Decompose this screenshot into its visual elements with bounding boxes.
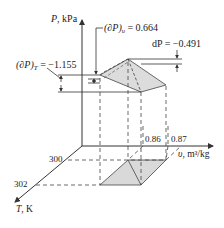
tick-v-0.86: 0.86 <box>145 134 161 144</box>
tick-t-302: 302 <box>14 179 28 189</box>
annotation-dp-t: (∂P)T = −1.155 <box>16 59 76 72</box>
annotation-dp-v: (∂P)υ = 0.664 <box>104 22 158 35</box>
v-axis-label: υ, m³/kg <box>178 149 210 159</box>
t-axis-label: T, K <box>16 204 33 214</box>
tick-t-300: 300 <box>49 154 63 164</box>
tick-v-0.87: 0.87 <box>171 134 187 144</box>
annotation-dp-total: dP = −0.491 <box>152 38 201 49</box>
p-axis-label: P, kPa <box>50 13 78 24</box>
base-projection <box>100 160 166 185</box>
pvt-diagram: P, kPa υ, m³/kg T, K 0.86 0.87 300 302 (… <box>0 0 224 228</box>
